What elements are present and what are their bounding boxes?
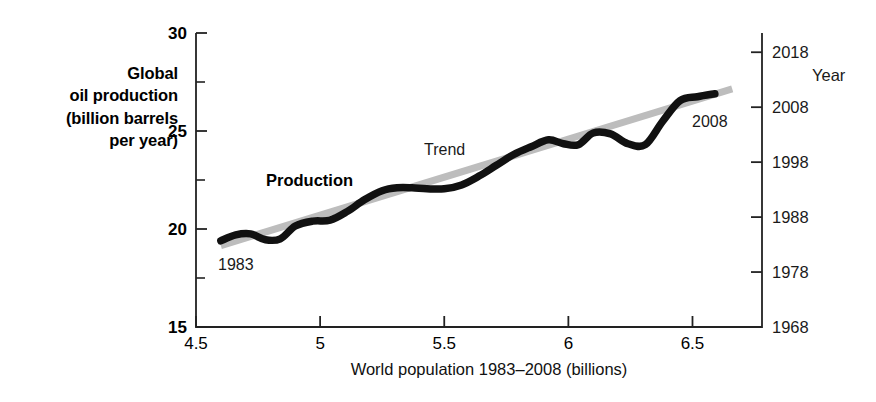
chart-svg: 152025301968197819881998200820184.555.56… [0, 0, 876, 402]
x-tick-label: 4.5 [184, 334, 208, 353]
x-tick-label: 6 [564, 334, 573, 353]
y-axis-title-line-1: Global [8, 62, 178, 84]
x-axis-title: World population 1983–2008 (billions) [351, 360, 628, 378]
right-axis-title: Year [812, 66, 845, 85]
y2-tick-label: 2018 [772, 43, 809, 61]
x-tick-label: 5.5 [432, 334, 456, 353]
y2-tick-label: 1998 [772, 153, 809, 171]
end-year-annotation: 2008 [692, 113, 728, 130]
trend-annotation: Trend [424, 141, 465, 158]
x-tick-label: 6.5 [681, 334, 705, 353]
y-axis-title-line-3: (billion barrels [8, 107, 178, 129]
start-year-annotation: 1983 [218, 256, 254, 273]
y-tick-label: 20 [168, 220, 187, 239]
y-axis-title-line-2: oil production [8, 84, 178, 106]
y2-tick-label: 1978 [772, 263, 809, 281]
x-tick-label: 5 [315, 334, 324, 353]
chart-figure: Global oil production (billion barrels p… [0, 0, 876, 402]
y-tick-label: 30 [168, 24, 187, 43]
y-axis-title: Global oil production (billion barrels p… [8, 62, 178, 151]
production-annotation: Production [266, 171, 353, 189]
y2-tick-label: 1968 [772, 318, 809, 336]
y2-tick-label: 2008 [772, 98, 809, 116]
y-axis-title-line-4: per year) [8, 129, 178, 151]
y2-tick-label: 1988 [772, 208, 809, 226]
